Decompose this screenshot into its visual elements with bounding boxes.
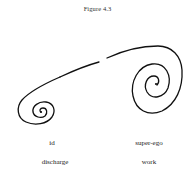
right-spiral-center-dot bbox=[155, 83, 157, 85]
label-discharge: discharge bbox=[42, 158, 69, 166]
label-super-ego: super-ego bbox=[135, 139, 162, 147]
left-spiral-icon bbox=[18, 77, 60, 124]
connector-line-left bbox=[60, 62, 99, 77]
label-id: id bbox=[49, 139, 54, 147]
left-spiral-center-dot bbox=[40, 111, 42, 113]
label-work: work bbox=[142, 158, 156, 166]
figure: Figure 4.3 id discharge super-ego work bbox=[0, 0, 195, 180]
spiral-diagram bbox=[0, 0, 195, 180]
connector-line-right bbox=[107, 46, 182, 113]
